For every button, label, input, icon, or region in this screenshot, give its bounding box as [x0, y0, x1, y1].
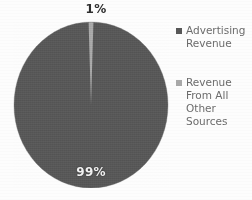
legend-label-line: Sources: [186, 115, 252, 128]
legend-entry-advertising-revenue[interactable]: Advertising Revenue: [176, 24, 252, 50]
pie-svg: [13, 21, 169, 188]
legend-label-line: Revenue: [186, 76, 252, 89]
legend-label-line: Advertising: [186, 24, 252, 37]
legend-label-line: Other: [186, 102, 252, 115]
data-label-small-slice: 1%: [78, 2, 114, 16]
legend: Advertising Revenue Revenue From All Oth…: [176, 24, 252, 128]
legend-swatch-icon-advertising-revenue: [176, 28, 182, 34]
legend-label-line: Revenue: [186, 37, 252, 50]
data-label-large-slice: 99%: [68, 165, 114, 179]
pie-chart: 1% 99% Advertising Revenue Revenue From …: [0, 0, 252, 200]
legend-label-line: From All: [186, 89, 252, 102]
legend-label-advertising-revenue: Advertising Revenue: [186, 24, 252, 50]
legend-entry-revenue-from-all-other-sources[interactable]: Revenue From All Other Sources: [176, 76, 252, 128]
pie-graphic: [13, 21, 169, 188]
legend-swatch-icon-revenue-from-all-other-sources: [176, 80, 182, 86]
legend-label-revenue-from-all-other-sources: Revenue From All Other Sources: [186, 76, 252, 128]
